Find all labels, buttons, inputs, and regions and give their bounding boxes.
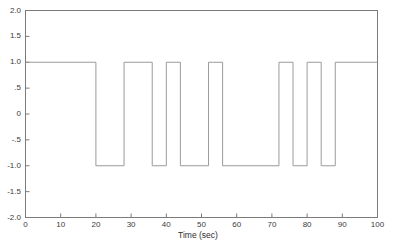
x-tick-label: 80 <box>292 221 322 229</box>
x-tick-label: 0 <box>11 221 41 229</box>
x-tick-label: 50 <box>187 221 217 229</box>
x-tick-label: 20 <box>81 221 111 229</box>
x-tick-label: 70 <box>257 221 287 229</box>
x-tick-label: 100 <box>363 221 393 229</box>
x-tick-label: 60 <box>222 221 252 229</box>
x-axis-title: Time (sec) <box>0 231 396 240</box>
x-tick-label: 40 <box>151 221 181 229</box>
x-tick-label: 90 <box>327 221 357 229</box>
chart-figure: 2.01.51.0.50-.5-1.0-1.5-2.0 010203040506… <box>0 0 396 244</box>
x-axis-labels: 0102030405060708090100 <box>0 0 396 244</box>
x-tick-label: 10 <box>46 221 76 229</box>
x-tick-label: 30 <box>116 221 146 229</box>
